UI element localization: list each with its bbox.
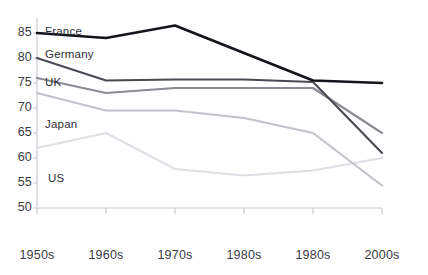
x-axis-tick-label-5: 2000s [352, 248, 412, 262]
x-axis-tick-label-1: 1960s [76, 248, 136, 262]
y-axis-tick-label-55: 55 [6, 175, 32, 189]
y-axis-tick-label-75: 75 [6, 75, 32, 89]
y-axis-tick-label-50: 50 [6, 200, 32, 214]
x-axis-tick-label-2: 1970s [145, 248, 205, 262]
y-axis-tick-label-85: 85 [6, 25, 32, 39]
y-axis-tick-label-80: 80 [6, 50, 32, 64]
x-axis-tick-label-3: 1980s [214, 248, 274, 262]
series-label-germany: Germany [45, 48, 94, 60]
series-label-us: US [48, 172, 64, 184]
series-label-france: France [45, 25, 82, 37]
y-axis-tick-label-70: 70 [6, 100, 32, 114]
y-axis-tick-label-60: 60 [6, 150, 32, 164]
series-line-us [37, 133, 382, 176]
line-chart: 8580757065605550 1950s1960s1970s1980s198… [0, 0, 428, 275]
y-axis-tick-label-65: 65 [6, 125, 32, 139]
x-axis-tick-label-0: 1950s [7, 248, 67, 262]
x-axis-tick-label-4: 1980s [283, 248, 343, 262]
series-label-uk: UK [45, 76, 61, 88]
chart-plot-area [0, 0, 428, 275]
series-label-japan: Japan [45, 118, 77, 130]
